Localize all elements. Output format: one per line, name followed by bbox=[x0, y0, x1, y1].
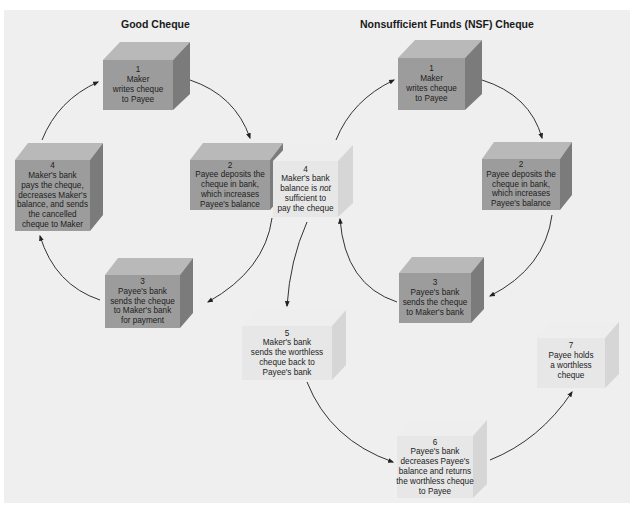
nsf-step-4-box: 4 Maker's bank balance is not sufficient… bbox=[273, 145, 353, 217]
nsf-step-3-box: 3 Payee's bank sends the cheque to Maker… bbox=[399, 257, 484, 323]
good-step-1-box: 1 Maker writes cheque to Payee bbox=[103, 42, 190, 110]
good-step-4-box: 4 Maker's bank pays the cheque, decrease… bbox=[15, 143, 103, 231]
arrow-nsf-4-to-5 bbox=[287, 222, 307, 306]
nsf-step-7-box: 7 Payee holds a worthless cheque bbox=[537, 322, 619, 388]
nsf-step-1-box: 1 Maker writes cheque to Payee bbox=[398, 40, 482, 110]
arrow-good-2-to-3 bbox=[208, 218, 272, 302]
arrow-nsf-4-to-1 bbox=[336, 80, 394, 140]
step-number: 1 bbox=[136, 65, 141, 75]
arrow-good-4-to-1 bbox=[42, 82, 98, 140]
nsf-step-2-box: 2 Payee deposits the cheque in bank, whi… bbox=[482, 142, 572, 210]
arrow-good-3-to-4 bbox=[40, 236, 100, 300]
arrow-nsf-2-to-3 bbox=[490, 215, 552, 296]
good-step-2-box: 2 Payee deposits the cheque in bank, whi… bbox=[190, 143, 283, 210]
good-step-3-box: 3 Payee's bank sends the cheque to Maker… bbox=[105, 258, 193, 328]
flow-arrows bbox=[0, 0, 634, 506]
arrow-nsf-5-to-6 bbox=[307, 382, 393, 462]
not-emphasis-line: balance is not bbox=[280, 184, 331, 194]
arrow-nsf-6-to-7 bbox=[490, 392, 572, 460]
nsf-step-6-box: 6 Payee's bank decreases Payee's balance… bbox=[397, 420, 487, 498]
nsf-step-5-box: 5 Maker's bank sends the worthless chequ… bbox=[242, 310, 346, 380]
arrow-nsf-3-to-4 bbox=[340, 219, 397, 302]
arrow-nsf-1-to-2 bbox=[482, 80, 542, 138]
arrow-good-1-to-2 bbox=[190, 80, 250, 138]
